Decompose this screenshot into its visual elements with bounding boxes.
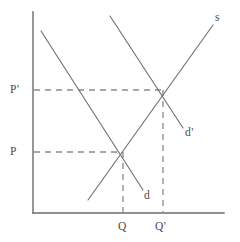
demand-curve-shifted-label: d': [185, 127, 194, 139]
price-label-new: P': [10, 84, 19, 96]
figure-canvas: [0, 0, 240, 242]
supply-curve: [88, 25, 213, 200]
demand-curve-initial: [41, 31, 143, 190]
supply-curve-label: s: [215, 12, 220, 24]
quantity-label-new: Q': [155, 221, 166, 233]
demand-curve-initial-label: d: [144, 190, 150, 202]
supply-demand-figure: P' P Q Q' s d d': [0, 0, 240, 242]
price-label-initial: P: [10, 146, 17, 158]
demand-curve-shifted: [110, 16, 183, 128]
quantity-label-initial: Q: [118, 221, 127, 233]
